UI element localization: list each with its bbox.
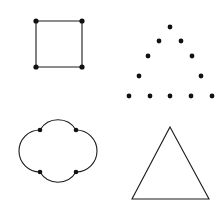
square-with-corner-dots-dot-3	[33, 64, 38, 69]
quatrefoil-with-corner-dots-dots	[38, 128, 79, 175]
dotted-triangle-dot-1	[157, 39, 162, 44]
square-outline	[36, 21, 82, 67]
dotted-triangle-dot-8	[148, 94, 153, 99]
dotted-triangle-dot-6	[199, 74, 204, 79]
square-with-corner-dots-dot-0	[33, 18, 38, 23]
dotted-triangle-dot-2	[179, 39, 184, 44]
panel-plain-triangle	[132, 127, 209, 199]
plain-triangle-outline	[132, 127, 209, 199]
square-with-corner-dots-dot-2	[79, 64, 84, 69]
dot-layer	[33, 18, 214, 174]
square-with-corner-dots-dots	[33, 18, 84, 69]
dotted-triangle-dots	[127, 25, 215, 99]
quatrefoil-with-corner-dots-dot-2	[74, 170, 79, 175]
dotted-triangle-dot-9	[168, 94, 173, 99]
dotted-triangle-dot-7	[127, 94, 132, 99]
dotted-triangle-dot-0	[168, 25, 173, 30]
dotted-triangle-dot-11	[210, 94, 215, 99]
quatrefoil-with-corner-dots-dot-1	[74, 128, 79, 133]
square-with-corner-dots-dot-1	[79, 18, 84, 23]
quatrefoil-outline	[19, 120, 97, 182]
shapes-svg	[0, 0, 222, 209]
dotted-triangle-dot-3	[146, 54, 151, 59]
figure-canvas	[0, 0, 222, 209]
panel-quatrefoil	[19, 120, 97, 182]
quatrefoil-with-corner-dots-dot-3	[38, 170, 43, 175]
dotted-triangle-dot-5	[137, 74, 142, 79]
panel-square-with-corner-dots	[36, 21, 82, 67]
dotted-triangle-dot-10	[189, 94, 194, 99]
dotted-triangle-dot-4	[190, 54, 195, 59]
quatrefoil-with-corner-dots-dot-0	[38, 128, 43, 133]
